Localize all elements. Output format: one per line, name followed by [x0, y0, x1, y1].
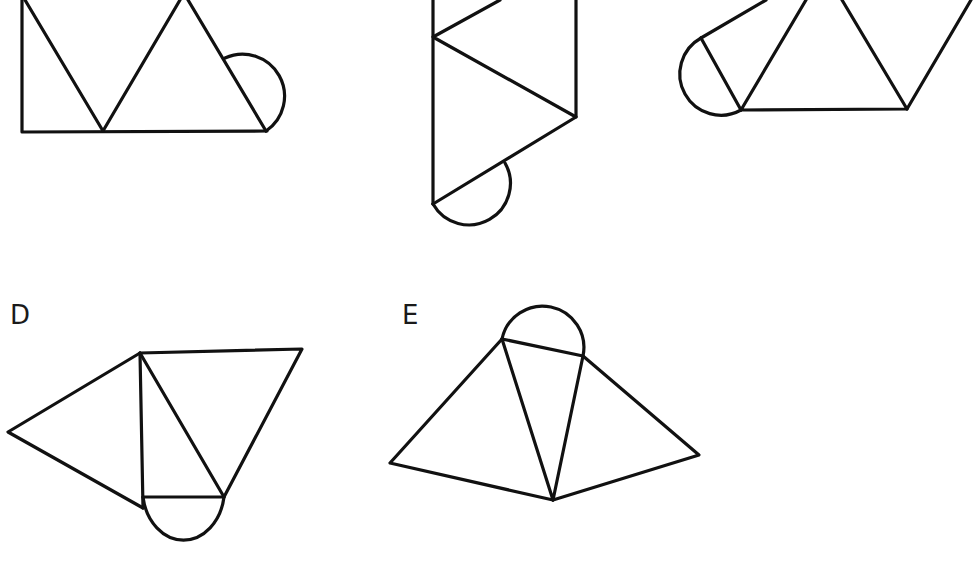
- label-d: D: [10, 300, 30, 330]
- semicircle-d: [143, 497, 224, 540]
- label-e: E: [402, 300, 418, 330]
- figure-b: [433, 0, 576, 225]
- semicircle-c: [680, 38, 741, 115]
- figure-d: D: [8, 300, 302, 540]
- chord-c: [701, 38, 741, 110]
- figure-c: [680, 0, 971, 115]
- semicircle-a: [225, 54, 285, 131]
- figure-e: E: [390, 300, 699, 500]
- nets-diagram: D E: [0, 0, 978, 568]
- figure-a: [22, 0, 285, 132]
- semicircle-b: [433, 163, 510, 225]
- chord-e: [502, 339, 583, 356]
